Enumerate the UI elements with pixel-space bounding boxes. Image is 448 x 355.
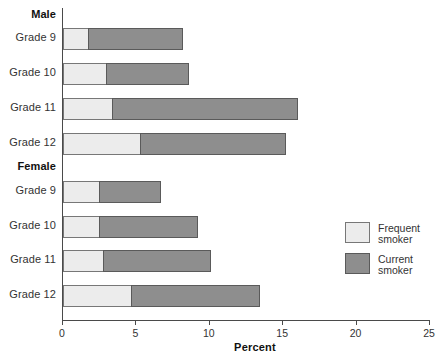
bar-segment-frequent-smoker (63, 216, 100, 238)
y-axis-line (62, 8, 63, 320)
bar-segment-frequent-smoker (63, 98, 113, 120)
bar-segment-frequent-smoker (63, 63, 107, 85)
bar-male-grade-10 (63, 63, 189, 85)
x-axis-tick (62, 320, 63, 325)
bar-segment-current-smoker (112, 98, 298, 120)
bar-segment-frequent-smoker (63, 133, 141, 155)
bar-segment-current-smoker (106, 63, 189, 85)
legend-label-frequent-line2: smoker (378, 234, 420, 245)
x-axis-line (62, 320, 429, 321)
category-label-male-grade-11: Grade 11 (0, 101, 56, 113)
bar-segment-current-smoker (99, 181, 162, 203)
x-axis-tick-label: 0 (47, 327, 77, 339)
x-axis-tick (429, 320, 430, 325)
group-heading-male: Male (0, 8, 56, 20)
legend-label-current-smoker: Current smoker (378, 253, 413, 276)
x-axis-tick-label: 10 (194, 327, 224, 339)
bar-segment-current-smoker (140, 133, 286, 155)
x-axis-tick (356, 320, 357, 325)
bar-male-grade-12 (63, 133, 286, 155)
legend-entry-current-smoker: Current smoker (345, 253, 445, 276)
x-axis-tick (209, 320, 210, 325)
bar-segment-frequent-smoker (63, 285, 132, 307)
bar-segment-current-smoker (88, 28, 183, 50)
category-label-female-grade-11: Grade 11 (0, 253, 56, 265)
stacked-bar-chart: Male Grade 9 Grade 10 Grade 11 Grade 12 … (0, 0, 448, 355)
bar-female-grade-9 (63, 181, 161, 203)
legend-swatch-frequent-smoker (345, 222, 370, 243)
category-label-female-grade-9: Grade 9 (0, 184, 56, 196)
category-label-male-grade-9: Grade 9 (0, 31, 56, 43)
x-axis-tick-label: 5 (120, 327, 150, 339)
bar-female-grade-12 (63, 285, 260, 307)
x-axis-tick (135, 320, 136, 325)
x-axis-tick-label: 20 (341, 327, 371, 339)
group-heading-female: Female (0, 160, 56, 172)
category-label-female-grade-10: Grade 10 (0, 219, 56, 231)
category-label-male-grade-12: Grade 12 (0, 136, 56, 148)
bar-female-grade-11 (63, 250, 211, 272)
category-label-female-grade-12: Grade 12 (0, 288, 56, 300)
x-axis-tick (282, 320, 283, 325)
bar-female-grade-10 (63, 216, 198, 238)
category-label-male-grade-10: Grade 10 (0, 66, 56, 78)
x-axis-tick-label: 15 (267, 327, 297, 339)
x-axis-title: Percent (0, 341, 448, 353)
legend-label-current-line2: smoker (378, 265, 413, 276)
legend-swatch-current-smoker (345, 253, 370, 274)
legend-entry-frequent-smoker: Frequent smoker (345, 222, 445, 245)
bar-male-grade-11 (63, 98, 298, 120)
bar-male-grade-9 (63, 28, 183, 50)
legend-label-frequent-smoker: Frequent smoker (378, 222, 420, 245)
bar-segment-frequent-smoker (63, 181, 100, 203)
bar-segment-current-smoker (99, 216, 198, 238)
bar-segment-current-smoker (103, 250, 211, 272)
chart-legend: Frequent smoker Current smoker (345, 222, 445, 284)
bar-segment-frequent-smoker (63, 250, 104, 272)
bar-segment-frequent-smoker (63, 28, 89, 50)
bar-segment-current-smoker (131, 285, 260, 307)
x-axis-tick-label: 25 (414, 327, 444, 339)
